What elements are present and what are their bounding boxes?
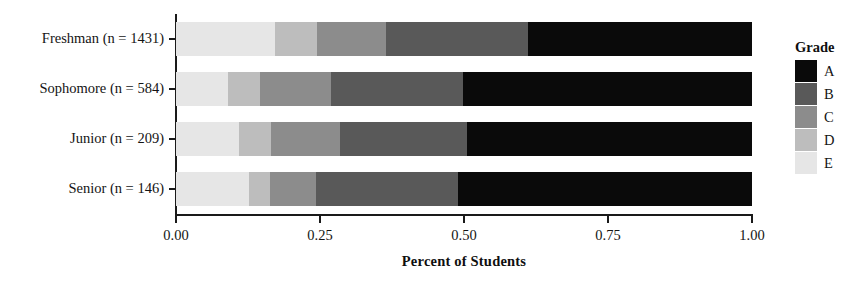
x-axis-tick [319,216,321,223]
bar-segment-grade-c [260,72,331,106]
bar-segment-grade-b [386,22,528,56]
legend-label-b: B [824,87,834,102]
legend-label-e: E [824,156,833,171]
legend-item-a: A [795,60,864,83]
y-axis-labels: Freshman (n = 1431)Sophomore (n = 584)Ju… [0,0,164,289]
legend-title: Grade [795,40,864,55]
y-axis-tick [169,188,176,190]
chart-figure: Freshman (n = 1431)Sophomore (n = 584)Ju… [0,0,864,289]
y-axis-tick-label: Freshman (n = 1431) [42,31,164,46]
bar-segment-grade-a [463,72,752,106]
bar-segment-grade-b [331,72,463,106]
legend-label-d: D [824,133,834,148]
bar-segment-grade-b [316,172,458,206]
bar-segment-grade-d [228,72,260,106]
bar-segment-grade-d [249,172,270,206]
bar-segment-grade-e [176,72,228,106]
legend-item-e: E [795,152,864,175]
bar-segment-grade-d [275,22,316,56]
legend-swatch-d [795,129,817,151]
legend-swatch-a [795,60,817,82]
bar-segment-grade-e [176,122,239,156]
bar-segment-grade-a [528,22,752,56]
legend-item-b: B [795,83,864,106]
y-axis-tick-label: Sophomore (n = 584) [39,81,164,96]
legend-items: ABCDE [795,60,864,175]
legend-swatch-b [795,83,817,105]
x-axis-tick [607,216,609,223]
bar-segment-grade-a [458,172,752,206]
bar-segment-grade-b [340,122,467,156]
legend: Grade ABCDE [795,40,864,175]
legend-item-d: D [795,129,864,152]
x-axis-tick [463,216,465,223]
x-axis-tick-label: 0.50 [451,228,476,243]
bar-segment-grade-c [317,22,387,56]
x-axis-tick [751,216,753,223]
x-axis-tick-label: 0.00 [163,228,188,243]
y-axis-tick [169,138,176,140]
x-axis-title: Percent of Students [176,253,752,270]
x-axis-tick-label: 0.75 [595,228,620,243]
x-axis-tick-label: 1.00 [739,228,764,243]
x-axis-tick-label: 0.25 [307,228,332,243]
legend-item-c: C [795,106,864,129]
bar-segment-grade-c [270,172,316,206]
bar-segment-grade-e [176,172,249,206]
legend-label-c: C [824,110,834,125]
bar-row [176,122,752,156]
bar-segment-grade-c [271,122,340,156]
plot-area [176,14,752,214]
bar-row [176,72,752,106]
x-axis-tick [175,216,177,223]
y-axis-tick-label: Junior (n = 209) [70,131,164,146]
bar-segment-grade-d [239,122,271,156]
legend-swatch-e [795,152,817,174]
y-axis-tick [169,88,176,90]
bar-segment-grade-a [467,122,752,156]
legend-swatch-c [795,106,817,128]
y-axis-tick [169,38,176,40]
bar-row [176,22,752,56]
y-axis-tick-label: Senior (n = 146) [68,181,164,196]
legend-label-a: A [824,64,834,79]
bar-row [176,172,752,206]
bar-segment-grade-e [176,22,275,56]
